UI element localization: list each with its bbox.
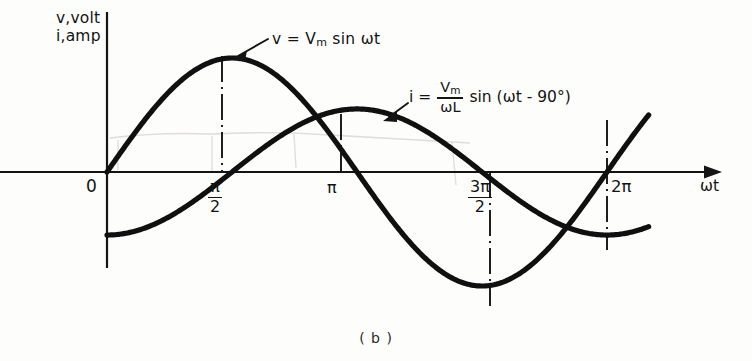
voltage-equation-rhs: sin ωt	[327, 30, 380, 48]
figure-waveform-diagram: v,volt i,amp ωt 0 π 2 π 3π 2 2π v = Vm s…	[0, 0, 752, 361]
fraction-denominator: 2	[208, 199, 222, 216]
y-axis-label-line2: i,amp	[56, 28, 101, 45]
fraction-numerator: 3π	[468, 179, 492, 196]
fraction-numerator: π	[208, 179, 222, 196]
fraction-3pi-over-2: 3π 2	[468, 179, 492, 216]
x-tick-label-3pi-over-2: 3π 2	[468, 179, 492, 216]
x-axis-label: ωt	[700, 178, 719, 195]
voltage-equation-lhs: v = V	[272, 30, 316, 48]
x-tick-label-zero: 0	[86, 177, 97, 196]
fraction-pi-over-2: π 2	[208, 179, 222, 216]
fraction-denominator: 2	[468, 199, 492, 216]
plot-canvas	[0, 0, 752, 361]
fraction-numerator-text: V	[440, 79, 450, 95]
current-equation-label: i = Vm ωL sin (ωt - 90°)	[409, 80, 571, 115]
x-tick-label-pi: π	[327, 179, 337, 197]
fraction-numerator: Vm	[437, 80, 463, 96]
fraction-numerator-subscript: m	[450, 84, 460, 96]
current-equation-rhs: sin (ωt - 90°)	[469, 89, 570, 106]
scan-artifact	[294, 134, 296, 168]
voltage-equation-label: v = Vm sin ωt	[272, 31, 380, 49]
y-axis-label-line1: v,volt	[56, 10, 101, 27]
scan-artifact	[110, 133, 470, 143]
x-tick-label-pi-over-2: π 2	[208, 179, 222, 216]
voltage-equation-subscript: m	[316, 36, 327, 49]
x-tick-label-2pi: 2π	[611, 178, 631, 196]
y-axis-label: v,volt i,amp	[56, 10, 101, 47]
figure-caption: ( b )	[0, 330, 752, 346]
current-equation-fraction: Vm ωL	[437, 80, 463, 115]
fraction-denominator: ωL	[437, 100, 463, 115]
current-equation-lhs: i =	[409, 89, 431, 106]
